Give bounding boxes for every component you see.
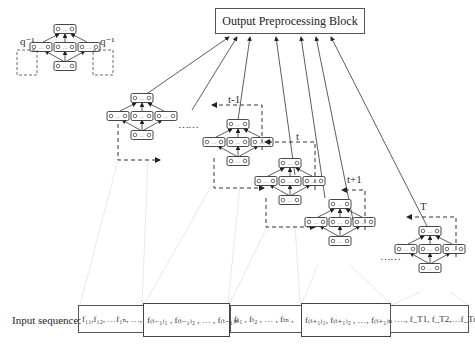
network-t xyxy=(255,142,325,227)
input-sequence-label: Input sequence: xyxy=(12,314,81,326)
network-T xyxy=(395,217,465,273)
legend-network xyxy=(17,25,113,76)
time-label-t-minus-1: t-1 xyxy=(228,93,240,105)
network-first xyxy=(107,94,177,161)
ellipsis-right: …… xyxy=(380,250,400,262)
q-inverse-label-left: q⁻¹ xyxy=(20,35,35,48)
input-segment-1: f₁₁,f₁₂, …f₁ₙ, …, xyxy=(78,305,144,333)
ellipsis-left: …… xyxy=(178,118,198,130)
diagram-canvas: … xyxy=(0,0,475,356)
time-label-T: T xyxy=(420,200,427,212)
input-segment-t-plus-1: f₍ₜ₊₁₎₁, f₍ₜ₊₁₎₂ , …, f₍ₜ₊₁₎ₙ xyxy=(301,303,391,337)
input-segment-t-minus-1: f₍ₜ₋₁₎₁ , f₍ₜ₋₁₎₂ , … , f₍ₜ₋₁₎ₙ xyxy=(143,303,230,337)
time-label-t: t xyxy=(296,130,299,142)
network-t-plus-1 xyxy=(305,190,375,246)
input-segment-t: fₜ₁ , fₜ₂ , … , fₜₙ , xyxy=(230,305,302,333)
q-inverse-label-right: q⁻¹ xyxy=(100,35,115,48)
output-preprocessing-block: Output Preprocessing Block xyxy=(215,8,365,34)
input-segment-T: …., f_T1, f_T2,…f_Tn xyxy=(390,305,469,333)
output-connections xyxy=(145,37,432,236)
time-label-t-plus-1: t+1 xyxy=(347,173,362,185)
